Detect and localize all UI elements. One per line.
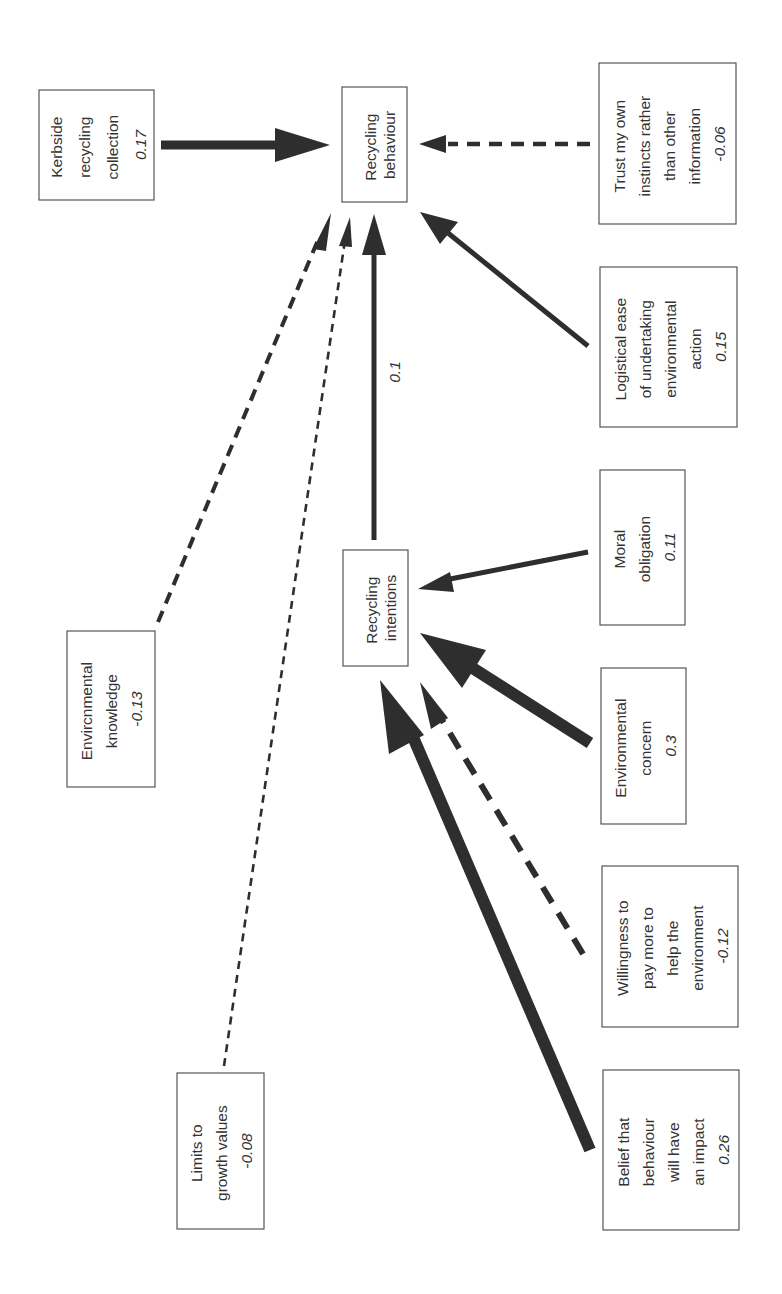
node-environmental-knowledge: Envircnmental knowledge -0.13	[67, 631, 155, 787]
node-trust-own-instincts: Trust my own instincts rather than other…	[599, 63, 736, 224]
edge-concern-to-intentions	[420, 633, 590, 743]
edge-kerbside-to-behaviour	[161, 128, 330, 162]
node-recycling-behaviour: Recycling behaviour	[342, 87, 407, 202]
edge-intentions-to-behaviour	[362, 214, 386, 540]
edge-limits-to-behaviour	[224, 217, 352, 1066]
node-environmental-concern: Environmental concern 0.3	[601, 668, 686, 824]
edge-moral-to-intentions	[418, 552, 588, 592]
node-limits-to-growth: Limits to growth values -0.08	[177, 1073, 264, 1229]
edge-label-intentions-behaviour: 0.1	[386, 361, 403, 383]
node-willingness-to-pay: Willingness to pay more to help the envi…	[602, 866, 738, 1027]
node-belief-behaviour-impact: Belief that behaviour will have an impac…	[603, 1070, 739, 1230]
edge-logistical-to-behaviour	[420, 212, 588, 346]
node-recycling-intentions: Recycling intentions	[343, 550, 408, 666]
edge-knowledge-to-behaviour	[158, 213, 331, 622]
edge-trust-to-behaviour	[419, 135, 590, 153]
node-logistical-ease: Logistical ease of undertaking environme…	[600, 267, 737, 427]
node-moral-obligation: Moral obligation 0.11	[600, 470, 685, 625]
node-kerbside-recycling-collection: Kerbside recycling collection 0.17	[39, 90, 154, 200]
